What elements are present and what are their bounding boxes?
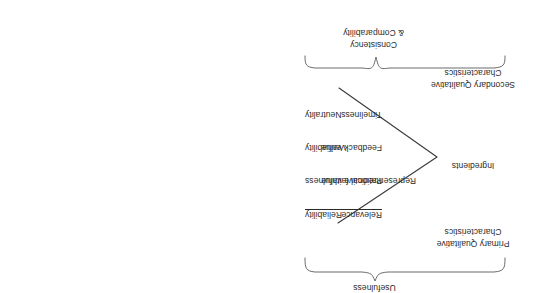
consistency-comparability-line1: Consistency (311, 39, 436, 51)
primary-qualitative-characteristics-label: Primary Qualitative Characteristics (399, 226, 547, 249)
usefulness-brace (305, 258, 505, 281)
diagram-lines (0, 0, 552, 293)
secondary-line2: Characteristics (399, 67, 547, 79)
consistency-comparability-label: Consistency & Comparability (311, 27, 436, 50)
ingredients-label: Ingredients (399, 160, 547, 172)
diagram-canvas: Usefulness Consistency & Comparability R… (0, 0, 552, 293)
secondary-line1: Secondary Qualitative (399, 79, 547, 91)
consistency-comparability-line2: & Comparability (311, 27, 436, 39)
usefulness-label: Usefulness (327, 282, 422, 293)
primary-line2: Characteristics (399, 226, 547, 238)
secondary-qualitative-characteristics-label: Secondary Qualitative Characteristics (399, 67, 547, 90)
primary-line1: Primary Qualitative (399, 238, 547, 250)
